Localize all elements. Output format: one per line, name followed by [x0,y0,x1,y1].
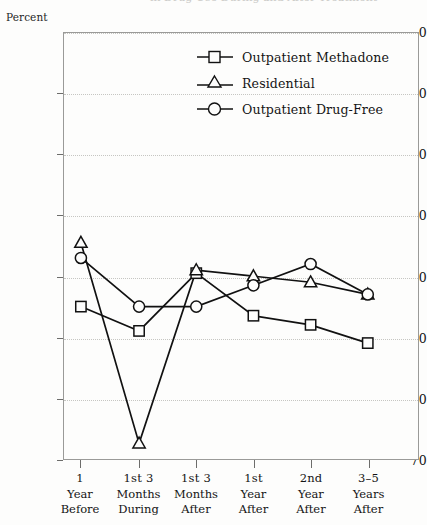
data-point-marker [75,236,87,247]
data-point-marker [362,289,373,300]
data-point-marker [363,338,373,348]
legend-item-label: Outpatient Methadone [242,50,389,65]
data-point-marker [305,258,316,269]
x-axis-tick-label-line: 3–5 [331,471,407,487]
x-axis-tick-label-line: Years [331,487,407,503]
series-line [81,243,368,444]
data-point-marker [191,301,202,312]
clipped-title-strip: in Drug Use During and After Treatment [0,0,427,10]
legend-item[interactable]: Residential [196,70,411,96]
data-point-marker [76,301,86,311]
chart-legend: Outpatient Methadone Residential Outpati… [196,44,411,122]
data-point-marker [133,437,145,448]
data-point-marker [248,280,259,291]
data-point-marker [305,320,315,330]
x-axis-tick-mark [369,460,370,468]
legend-item-label: Outpatient Drug-Free [242,102,383,117]
triangle-marker-icon [196,73,234,93]
legend-item[interactable]: Outpatient Drug-Free [196,96,411,122]
data-point-marker [134,326,144,336]
x-axis-tick-mark [311,460,312,468]
series-line [81,273,368,343]
circle-marker-icon [196,99,234,119]
data-point-marker [248,311,258,321]
clipped-title-text: in Drug Use During and After Treatment [150,0,377,4]
x-axis-tick-mark [196,460,197,468]
x-axis-tick-mark [139,460,140,468]
x-axis-tick-label-line: After [331,502,407,518]
data-point-marker [134,301,145,312]
y-axis-caption: Percent [6,11,48,23]
data-point-marker [75,252,86,263]
x-axis-tick-mark [254,460,255,468]
legend-item[interactable]: Outpatient Methadone [196,44,411,70]
x-axis-tick-label: 3–5YearsAfter [331,471,407,518]
y-axis-tick-mark [57,460,63,461]
series-line [81,258,368,307]
x-axis-tick-mark [80,460,81,468]
square-marker-icon [196,47,234,67]
legend-item-label: Residential [242,76,315,91]
